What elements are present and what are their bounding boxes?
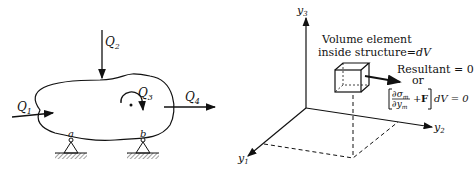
volume-label-line2: inside structure=dV [318, 46, 432, 59]
axis-y2-label: y2 [433, 121, 445, 135]
volume-label-line1: Volume element [321, 33, 412, 46]
structure-body [35, 74, 174, 140]
equilibrium-equation: ∂σm ∂ym + F dV = 0 [389, 89, 469, 110]
support-b: b [127, 128, 159, 159]
diagram-canvas: Q1 Q2 Q3 Q4 a b y [0, 0, 476, 171]
load-q3-label: Q3 [138, 86, 153, 102]
svg-text:F: F [421, 93, 428, 104]
svg-text:∂ym: ∂ym [392, 99, 408, 110]
load-q2-label: Q2 [105, 35, 120, 51]
svg-text:b: b [140, 128, 146, 139]
support-a: a [55, 128, 87, 159]
svg-text:dV = 0: dV = 0 [434, 93, 469, 104]
or-label: or [412, 74, 425, 87]
svg-text:a: a [68, 128, 74, 139]
resultant-label: Resultant = 0 [397, 63, 474, 76]
volume-element-figure: y3 y2 y1 Volume element inside structure… [237, 4, 474, 166]
load-q1-label: Q1 [17, 100, 32, 116]
structure-figure: Q1 Q2 Q3 Q4 a b [12, 30, 215, 159]
axis-y3-label: y3 [296, 4, 308, 18]
load-q4-label: Q4 [185, 90, 200, 106]
axis-y1-label: y1 [237, 152, 249, 166]
volume-cube [335, 63, 369, 92]
